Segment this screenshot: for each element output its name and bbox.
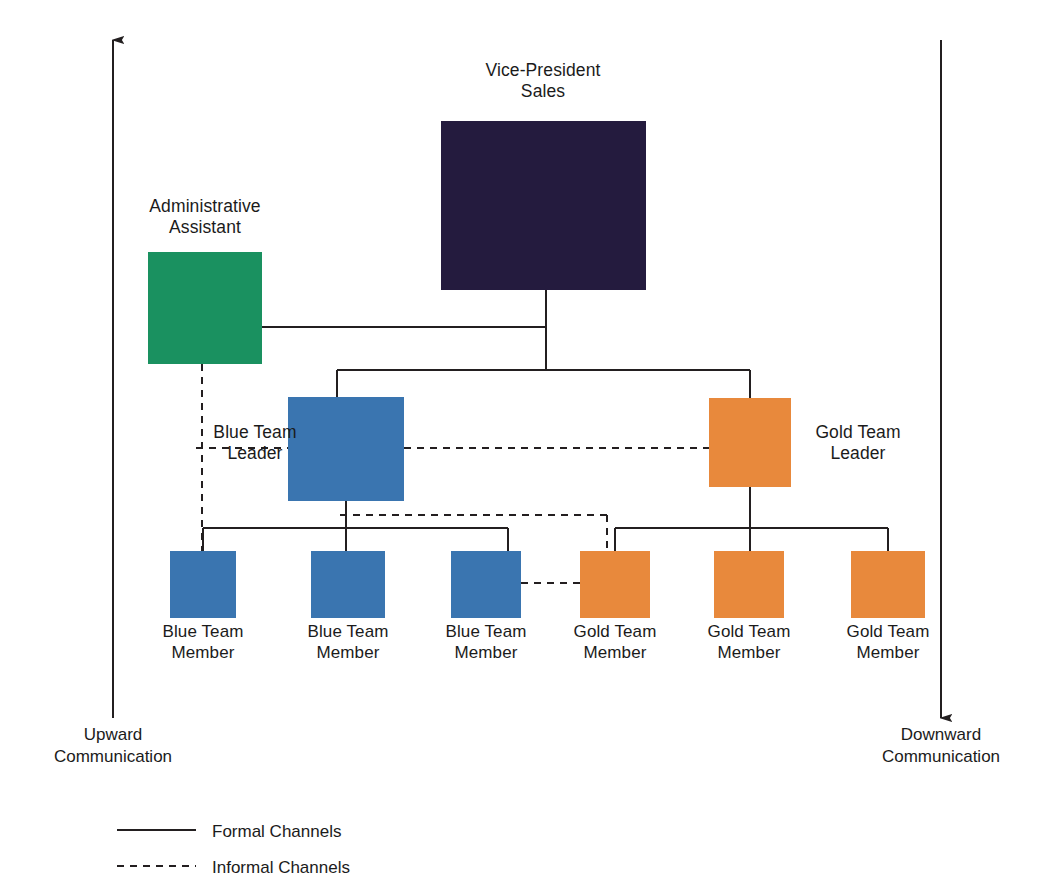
downward-communication-label: Downward Communication — [851, 724, 1031, 768]
legend-formal-label: Formal Channels — [212, 821, 341, 842]
node-box-blue-member-2[interactable] — [311, 551, 385, 618]
legend-informal-label: Informal Channels — [212, 857, 350, 878]
node-label-blue-leader: Blue Team Leader — [196, 422, 314, 465]
node-label-blue-member-1: Blue Team Member — [143, 622, 263, 663]
node-box-admin[interactable] — [148, 252, 262, 364]
node-label-admin: Administrative Assistant — [115, 196, 295, 239]
node-box-blue-member-1[interactable] — [170, 551, 236, 618]
upward-communication-label: Upward Communication — [23, 724, 203, 768]
node-label-blue-member-2: Blue Team Member — [288, 622, 408, 663]
node-box-vp[interactable] — [441, 121, 646, 290]
node-label-gold-member-1: Gold Team Member — [555, 622, 675, 663]
org-chart-diagram: Vice-President Sales Administrative Assi… — [0, 0, 1055, 887]
node-label-gold-member-2: Gold Team Member — [689, 622, 809, 663]
node-box-gold-member-2[interactable] — [714, 551, 784, 618]
node-box-gold-member-3[interactable] — [851, 551, 925, 618]
node-label-vp: Vice-President Sales — [443, 60, 643, 103]
node-box-gold-member-1[interactable] — [580, 551, 650, 618]
node-label-gold-member-3: Gold Team Member — [828, 622, 948, 663]
node-box-gold-leader[interactable] — [709, 398, 791, 487]
node-box-blue-member-3[interactable] — [451, 551, 521, 618]
node-label-gold-leader: Gold Team Leader — [796, 422, 920, 465]
node-label-blue-member-3: Blue Team Member — [426, 622, 546, 663]
